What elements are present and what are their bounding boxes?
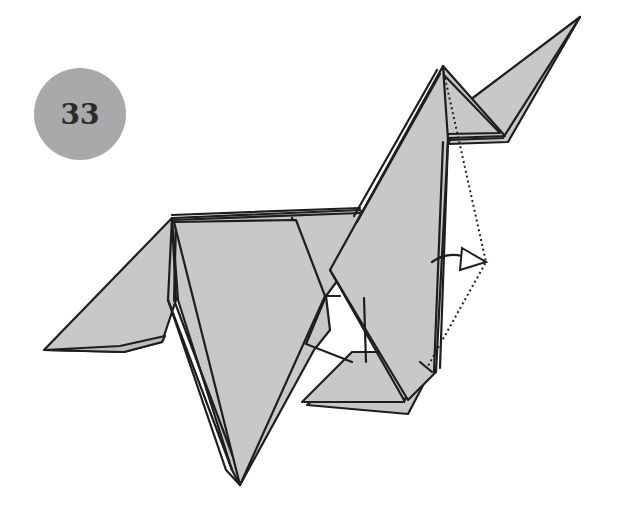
diagram-canvas: 33 [0, 0, 624, 510]
origami-figure [0, 0, 624, 510]
tail-flap [44, 218, 176, 352]
